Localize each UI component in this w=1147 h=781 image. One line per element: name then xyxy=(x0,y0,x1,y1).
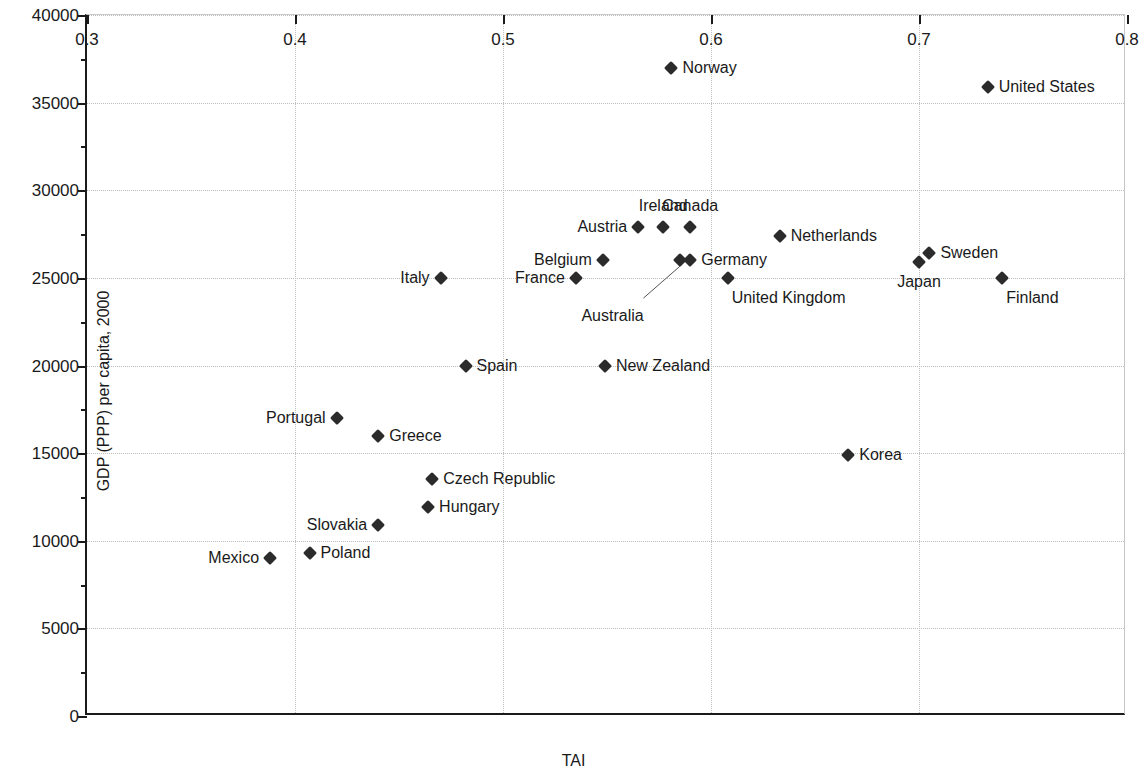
diamond-marker-icon xyxy=(596,253,610,267)
data-point-label: Portugal xyxy=(266,410,326,426)
gridline-horizontal xyxy=(87,190,1124,191)
data-point-label: Netherlands xyxy=(791,228,877,244)
data-point-label: Germany xyxy=(701,252,767,268)
x-tick-mark xyxy=(503,15,505,24)
y-tick-mark xyxy=(78,103,87,105)
diamond-marker-icon xyxy=(458,358,472,372)
y-tick-label: 30000 xyxy=(32,182,79,199)
annotation-label-australia: Australia xyxy=(581,308,643,324)
diamond-marker-icon xyxy=(664,60,678,74)
gridline-vertical xyxy=(919,15,920,713)
y-tick-mark-minor xyxy=(81,59,87,61)
x-tick-mark xyxy=(87,15,89,24)
y-tick-mark-minor xyxy=(81,234,87,236)
diamond-marker-icon xyxy=(302,546,316,560)
y-tick-label: 20000 xyxy=(32,357,79,374)
y-tick-label: 10000 xyxy=(32,532,79,549)
diamond-marker-icon xyxy=(569,271,583,285)
diamond-marker-icon xyxy=(330,411,344,425)
y-tick-mark-minor xyxy=(81,322,87,324)
y-tick-mark-minor xyxy=(81,585,87,587)
data-point-label: Hungary xyxy=(439,499,499,515)
data-point-label: Sweden xyxy=(940,245,998,261)
gridline-horizontal xyxy=(87,453,1124,454)
diamond-marker-icon xyxy=(841,448,855,462)
data-point-label: Norway xyxy=(682,60,736,76)
data-point-label: Mexico xyxy=(208,550,259,566)
y-tick-label: 15000 xyxy=(32,445,79,462)
x-tick-mark xyxy=(1127,15,1129,24)
y-tick-mark xyxy=(78,366,87,368)
x-axis-title: TAI xyxy=(0,752,1147,770)
diamond-marker-icon xyxy=(631,220,645,234)
gridline-vertical xyxy=(711,15,712,713)
diamond-marker-icon xyxy=(922,246,936,260)
y-tick-mark xyxy=(78,716,87,718)
x-tick-mark xyxy=(711,15,713,24)
gridline-vertical xyxy=(295,15,296,713)
x-tick-mark xyxy=(295,15,297,24)
y-tick-label: 35000 xyxy=(32,94,79,111)
diamond-marker-icon xyxy=(434,271,448,285)
y-tick-mark xyxy=(78,190,87,192)
y-tick-label: 40000 xyxy=(32,7,79,24)
y-tick-label: 25000 xyxy=(32,269,79,286)
y-tick-label: 0 xyxy=(70,708,79,725)
y-axis-title: GDP (PPP) per capita, 2000 xyxy=(95,290,113,491)
gridline-horizontal xyxy=(87,103,1124,104)
y-tick-mark xyxy=(78,628,87,630)
plot-area: 0500010000150002000025000300003500040000… xyxy=(85,14,1125,715)
diamond-marker-icon xyxy=(995,271,1009,285)
data-point-label: France xyxy=(515,270,565,286)
data-point-label: Austria xyxy=(577,219,627,235)
diamond-marker-icon xyxy=(683,220,697,234)
gridline-horizontal xyxy=(87,628,1124,629)
diamond-marker-icon xyxy=(656,220,670,234)
data-point-label: Spain xyxy=(477,358,518,374)
leader-line xyxy=(643,266,679,298)
x-tick-label: 0.3 xyxy=(75,31,99,48)
y-tick-label: 5000 xyxy=(41,620,79,637)
data-point-label: Canada xyxy=(662,198,718,214)
y-tick-mark-minor xyxy=(81,409,87,411)
data-point-label: Italy xyxy=(400,270,429,286)
y-tick-mark-minor xyxy=(81,672,87,674)
data-point-label: Poland xyxy=(321,545,371,561)
scatter-chart-figure: 0500010000150002000025000300003500040000… xyxy=(0,0,1147,781)
diamond-marker-icon xyxy=(912,255,926,269)
y-tick-mark xyxy=(78,453,87,455)
data-point-label: United States xyxy=(999,79,1095,95)
x-tick-label: 0.8 xyxy=(1115,31,1139,48)
data-point-label: New Zealand xyxy=(616,358,710,374)
data-point-label: Japan xyxy=(897,274,941,290)
gridline-horizontal xyxy=(87,541,1124,542)
x-tick-mark xyxy=(919,15,921,24)
diamond-marker-icon xyxy=(263,551,277,565)
y-tick-mark xyxy=(78,15,87,17)
diamond-marker-icon xyxy=(371,518,385,532)
gridline-horizontal xyxy=(87,15,1124,16)
gridline-horizontal xyxy=(87,278,1124,279)
data-point-label: Finland xyxy=(1006,290,1058,306)
data-point-label: United Kingdom xyxy=(732,290,846,306)
y-tick-mark xyxy=(78,541,87,543)
data-point-label: Belgium xyxy=(534,252,592,268)
data-point-label: Slovakia xyxy=(307,517,367,533)
y-tick-mark-minor xyxy=(81,146,87,148)
diamond-marker-icon xyxy=(598,358,612,372)
data-point-label: Greece xyxy=(389,428,441,444)
x-tick-label: 0.6 xyxy=(699,31,723,48)
diamond-marker-icon xyxy=(371,429,385,443)
data-point-label: Czech Republic xyxy=(443,471,555,487)
diamond-marker-icon xyxy=(683,253,697,267)
x-tick-label: 0.7 xyxy=(907,31,931,48)
diamond-marker-icon xyxy=(773,229,787,243)
x-tick-label: 0.5 xyxy=(491,31,515,48)
diamond-marker-icon xyxy=(425,472,439,486)
diamond-marker-icon xyxy=(981,80,995,94)
data-point-label: Korea xyxy=(859,447,902,463)
y-tick-mark-minor xyxy=(81,497,87,499)
x-tick-label: 0.4 xyxy=(283,31,307,48)
y-tick-mark xyxy=(78,278,87,280)
diamond-marker-icon xyxy=(421,500,435,514)
